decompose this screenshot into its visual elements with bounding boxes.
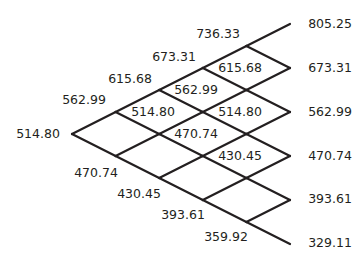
up-branch-edge [246, 200, 290, 222]
node-value-label: 673.31 [308, 62, 352, 75]
node-value-label: 805.25 [308, 18, 352, 31]
up-branch-edge [203, 178, 247, 200]
down-branch-edge [159, 178, 203, 200]
down-branch-edge [116, 156, 160, 178]
node-value-label: 673.31 [152, 51, 196, 64]
node-value-label: 470.74 [74, 167, 118, 180]
node-value-label: 514.80 [131, 106, 175, 119]
node-value-label: 393.61 [161, 209, 205, 222]
node-value-label: 736.33 [196, 28, 240, 41]
node-value-label: 359.92 [204, 231, 248, 244]
up-branch-edge [246, 24, 290, 46]
node-value-label: 329.11 [308, 237, 352, 250]
node-value-label: 615.68 [108, 73, 152, 86]
node-value-label: 514.80 [218, 106, 262, 119]
down-branch-edge [72, 134, 116, 156]
down-branch-edge [203, 200, 247, 222]
node-value-label: 430.45 [117, 188, 161, 201]
node-value-label: 562.99 [308, 106, 352, 119]
node-value-label: 470.74 [308, 150, 352, 163]
down-branch-edge [246, 222, 290, 244]
node-value-label: 393.61 [308, 193, 352, 206]
node-value-label: 430.45 [218, 150, 262, 163]
node-value-label: 562.99 [174, 84, 218, 97]
node-value-label: 514.80 [16, 128, 60, 141]
up-branch-edge [159, 156, 203, 178]
node-value-label: 615.68 [218, 62, 262, 75]
node-value-label: 470.74 [174, 128, 218, 141]
up-branch-edge [72, 112, 116, 134]
up-branch-edge [116, 134, 160, 156]
node-value-label: 562.99 [62, 94, 106, 107]
down-branch-edge [246, 178, 290, 200]
